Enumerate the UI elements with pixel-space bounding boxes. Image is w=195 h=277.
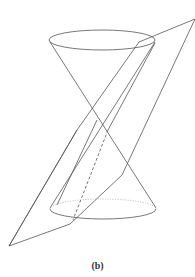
figure-caption: (b)	[0, 260, 195, 271]
double-cone-diagram	[0, 0, 195, 277]
bottom-cone-rim-hidden	[50, 199, 156, 209]
intersection-line	[108, 43, 155, 130]
plane-inner-edge-lower	[57, 120, 97, 205]
bottom-cone-rim	[50, 209, 156, 219]
plane-edge-left	[9, 130, 77, 246]
top-cone-rim	[49, 30, 155, 50]
cutting-plane	[9, 19, 195, 246]
